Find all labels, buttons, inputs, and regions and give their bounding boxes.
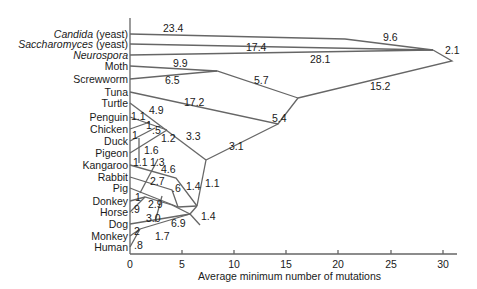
branch-label: 1 — [132, 130, 138, 141]
branch-label: 1.1 — [205, 178, 220, 189]
branch-label: 6.5 — [165, 75, 180, 86]
x-tick-label: 25 — [385, 258, 397, 270]
taxon-pig: Pig — [113, 182, 128, 194]
taxon-dog: Dog — [109, 218, 128, 230]
branch-label: .5 — [152, 125, 161, 136]
branch-label: 4.6 — [161, 164, 176, 175]
taxon-chicken: Chicken — [90, 123, 128, 135]
branch-label: 1.4 — [186, 181, 201, 192]
taxon-duck: Duck — [104, 135, 128, 147]
branch-label: 17.2 — [184, 97, 204, 108]
x-tick-label: 0 — [127, 258, 133, 270]
branch-label: 2.1 — [445, 45, 460, 56]
branch-label: 15.2 — [370, 81, 390, 92]
taxon-human: Human — [94, 241, 128, 253]
branch-label: .6 — [172, 183, 181, 194]
branch-label: 28.1 — [310, 54, 330, 65]
branch-label: 1.2 — [161, 133, 176, 144]
branch-label: 17.4 — [246, 42, 266, 53]
x-tick-label: 30 — [437, 258, 449, 270]
branch-label: 3.3 — [186, 131, 201, 142]
branch-label: 2.9 — [148, 199, 163, 210]
branch-label: 4.9 — [149, 105, 164, 116]
taxon-turtle: Turtle — [102, 97, 128, 109]
branch-label: 6.9 — [171, 218, 186, 229]
branch-label: 5.4 — [272, 113, 287, 124]
taxon-moth: Moth — [105, 60, 128, 72]
branch-label: 1.6 — [144, 145, 159, 156]
branch-label: 3.0 — [146, 213, 161, 224]
x-tick-label: 15 — [280, 258, 292, 270]
branch-label: 1.4 — [201, 211, 216, 222]
x-tick-label: 20 — [332, 258, 344, 270]
taxon-penguin: Penguin — [89, 111, 128, 123]
branch-label: 5.7 — [254, 75, 269, 86]
x-tick-label: 5 — [179, 258, 185, 270]
taxon-kangaroo: Kangaroo — [82, 159, 128, 171]
branch-label: 3.1 — [229, 141, 244, 152]
branch-label: 1.1 — [131, 111, 146, 122]
taxon-horse: Horse — [100, 206, 128, 218]
branch-label: 23.4 — [163, 23, 183, 34]
branch-label: 1 — [135, 192, 141, 203]
taxon-pigeon: Pigeon — [95, 147, 128, 159]
x-tick-label: 10 — [228, 258, 240, 270]
branch-label: 1 — [146, 120, 152, 131]
branch-placental-b — [190, 214, 200, 225]
branch-label: 2.7 — [150, 176, 165, 187]
branch-neurospora — [130, 50, 433, 55]
x-axis-title: Average minimum number of mutations — [198, 270, 381, 282]
branch-label: 1.7 — [155, 231, 170, 242]
branch-label: .9 — [131, 204, 140, 215]
branch-label: 1.1 — [133, 157, 148, 168]
taxon-screwworm: Screwworm — [73, 73, 128, 85]
branch-label: 2 — [134, 226, 140, 237]
branch-label: 9.6 — [383, 32, 398, 43]
branch-label: 9.9 — [173, 58, 188, 69]
branch-label: .8 — [134, 240, 143, 251]
